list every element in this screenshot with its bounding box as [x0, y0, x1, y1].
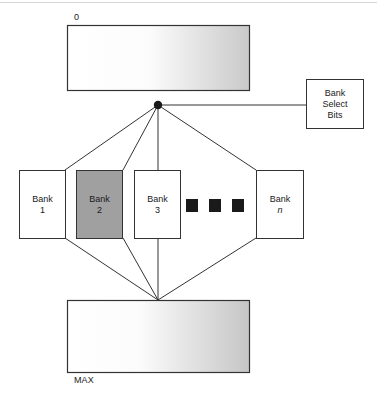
figure-container: 0 MAX Bank Select Bits Bank 1 Bank 2 Ban…: [0, 0, 377, 402]
connector-top-bank-n: [158, 105, 256, 170]
bank-label-group-3: Bank 3: [134, 170, 181, 239]
address-space-bottom-block: [68, 301, 250, 373]
address-space-top-block: [68, 26, 250, 91]
bank-label-group-n: Bank n: [256, 170, 304, 239]
bank-label-word-2: Bank: [89, 194, 110, 205]
connector-bottom-bank-1: [65, 238, 158, 300]
bank-label-index-2: 2: [89, 205, 110, 216]
ellipsis-square-1: [186, 199, 198, 212]
bank-select-label-group: Bank Select Bits: [306, 79, 364, 129]
bank-select-line-3: Bits: [322, 110, 347, 121]
bank-label-index-3: 3: [147, 205, 168, 216]
bottom-fan-connectors: [65, 238, 256, 300]
bus-junction-dot: [154, 101, 162, 109]
bank-label-word-1: Bank: [32, 194, 53, 205]
bank-label-index-1: 1: [32, 205, 53, 216]
address-label-zero: 0: [74, 12, 79, 23]
bank-label-word-3: Bank: [147, 194, 168, 205]
connector-bottom-bank-n: [158, 238, 256, 300]
top-fan-connectors: [65, 105, 256, 170]
bank-label-word-n: Bank: [270, 194, 291, 205]
bank-select-line-1: Bank: [322, 88, 347, 99]
connector-top-bank-1: [65, 105, 158, 170]
connector-top-bank-2: [123, 105, 158, 170]
bank-label-group-2: Bank 2: [76, 170, 123, 239]
bank-label-group-1: Bank 1: [19, 170, 66, 239]
address-label-max: MAX: [74, 375, 94, 386]
bank-label-index-n: n: [270, 205, 291, 216]
bank-select-line-2: Select: [322, 99, 347, 110]
connector-bottom-bank-2: [123, 238, 158, 300]
ellipsis-square-2: [209, 199, 221, 212]
ellipsis-square-3: [232, 199, 244, 212]
